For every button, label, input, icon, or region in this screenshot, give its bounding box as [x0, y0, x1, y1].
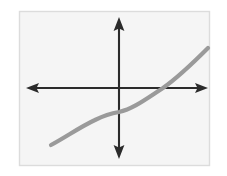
- figure-root: [0, 0, 227, 176]
- graph-canvas: [0, 0, 227, 176]
